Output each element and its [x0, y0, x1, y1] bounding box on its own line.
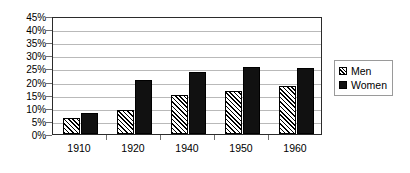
plot-area: [52, 17, 322, 135]
y-tick-mark: [46, 30, 52, 31]
x-tick-label: 1910: [67, 142, 90, 155]
legend-label-men: Men: [351, 65, 371, 77]
bar-women-1920: [135, 80, 152, 134]
y-tick-label: 40%: [0, 25, 46, 36]
x-tick-mark: [214, 135, 215, 140]
y-tick-label: 15%: [0, 90, 46, 101]
y-tick-mark: [46, 122, 52, 123]
bar-group: [279, 18, 314, 134]
bar-group: [63, 18, 98, 134]
bar-women-1950: [243, 67, 260, 134]
bar-women-1960: [297, 68, 314, 134]
bar-group: [171, 18, 206, 134]
y-tick-mark: [46, 83, 52, 84]
legend-item-women: Women: [339, 78, 387, 92]
y-tick-label: 20%: [0, 77, 46, 88]
bar-men-1920: [117, 110, 134, 134]
y-tick-mark: [46, 43, 52, 44]
legend: Men Women: [334, 60, 393, 96]
bar-group: [225, 18, 260, 134]
y-tick-label: 0%: [0, 130, 46, 141]
y-tick-mark: [46, 69, 52, 70]
bar-men-1940: [171, 95, 188, 134]
bar-women-1940: [189, 72, 206, 134]
x-axis: 19101920194019501960: [52, 142, 322, 158]
bar-group: [117, 18, 152, 134]
legend-swatch-men-icon: [339, 67, 347, 75]
x-tick-mark: [106, 135, 107, 140]
bar-men-1960: [279, 86, 296, 135]
y-axis: 0%5%10%15%20%25%30%35%40%45%: [0, 11, 46, 135]
y-tick-label: 5%: [0, 116, 46, 127]
y-tick-mark: [46, 17, 52, 18]
bars-layer: [53, 18, 321, 134]
legend-label-women: Women: [351, 79, 387, 91]
y-tick-label: 30%: [0, 51, 46, 62]
y-tick-label: 10%: [0, 103, 46, 114]
x-tick-mark: [268, 135, 269, 140]
legend-item-men: Men: [339, 64, 387, 78]
x-tick-label: 1920: [121, 142, 144, 155]
x-tick-label: 1960: [283, 142, 306, 155]
bar-men-1950: [225, 91, 242, 134]
legend-swatch-women-icon: [339, 81, 347, 89]
x-tick-label: 1940: [175, 142, 198, 155]
y-tick-label: 45%: [0, 12, 46, 23]
y-tick-mark: [46, 56, 52, 57]
y-tick-label: 25%: [0, 64, 46, 75]
y-tick-mark: [46, 96, 52, 97]
x-tick-label: 1950: [229, 142, 252, 155]
y-tick-label: 35%: [0, 38, 46, 49]
x-tick-mark: [160, 135, 161, 140]
bar-women-1910: [81, 113, 98, 134]
bar-chart: 0%5%10%15%20%25%30%35%40%45% 19101920194…: [0, 0, 410, 173]
y-tick-mark: [46, 135, 52, 136]
bar-men-1910: [63, 118, 80, 134]
y-tick-mark: [46, 109, 52, 110]
